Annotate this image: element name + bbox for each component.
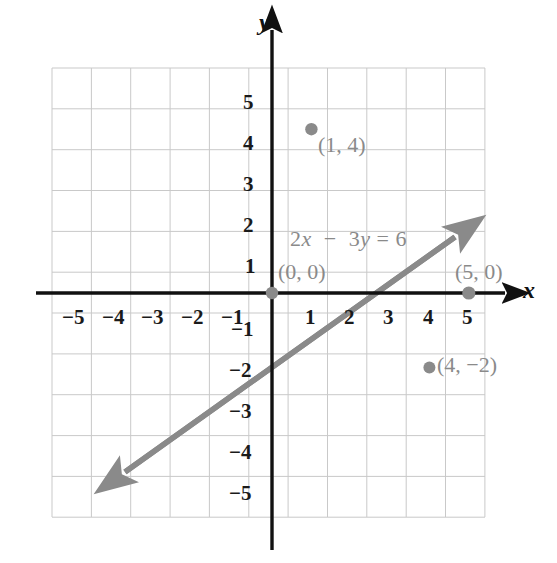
point-0-0: [266, 287, 278, 299]
equation-coef-y: 3: [349, 226, 361, 251]
y-tick-label-1: 1: [245, 256, 256, 277]
y-axis-label: y: [259, 10, 270, 34]
x-tick-label-1: 1: [305, 307, 316, 328]
point-4--2: [423, 362, 435, 374]
x-tick-label-minus5: −5: [62, 307, 84, 328]
point-label-4--2: (4, −2): [437, 354, 497, 376]
point-5-0: [462, 286, 475, 299]
equation-label: 2x − 3y = 6: [290, 228, 407, 250]
equation-var-x: x: [302, 226, 312, 251]
x-tick-label-minus4: −4: [102, 307, 124, 328]
point-1-4: [305, 123, 317, 135]
point-label-0-0: (0, 0): [278, 261, 326, 283]
y-tick-label-2: 2: [243, 215, 254, 236]
x-axis-label: x: [523, 278, 535, 302]
equation-minus: −: [324, 226, 337, 251]
y-tick-label-minus5: −5: [229, 483, 251, 504]
y-tick-label-4: 4: [243, 133, 254, 154]
equation-coef-x: 2: [290, 226, 302, 251]
x-tick-label-minus3: −3: [141, 307, 163, 328]
point-label-5-0: (5, 0): [455, 261, 503, 283]
graph-figure: −5 −4 −3 −2 −1 1 2 3 4 5 5 4 3 2 1 −1 −2…: [0, 0, 557, 563]
y-tick-label-minus1: −1: [231, 319, 253, 340]
x-tick-label-3: 3: [383, 307, 394, 328]
y-tick-label-minus4: −4: [229, 442, 251, 463]
x-tick-label-minus2: −2: [181, 307, 203, 328]
x-tick-label-5: 5: [462, 307, 473, 328]
y-tick-label-3: 3: [243, 174, 254, 195]
x-tick-label-4: 4: [423, 307, 434, 328]
y-tick-label-minus3: −3: [229, 401, 251, 422]
y-tick-label-minus2: −2: [229, 360, 251, 381]
y-tick-label-5: 5: [243, 92, 254, 113]
equation-var-y: y: [360, 226, 370, 251]
equation-constant: 6: [395, 226, 407, 251]
point-label-1-4: (1, 4): [318, 134, 366, 156]
x-tick-label-2: 2: [344, 307, 355, 328]
equation-equals: =: [376, 226, 389, 251]
